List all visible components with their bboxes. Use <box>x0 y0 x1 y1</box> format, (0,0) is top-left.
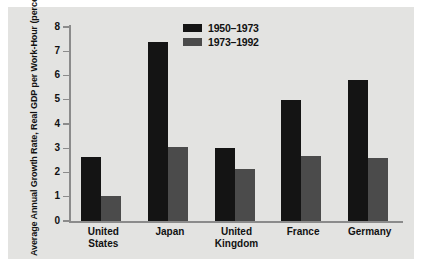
bar-1950-1973-united-states <box>81 157 101 221</box>
y-tick-label-text: 5 <box>44 94 60 104</box>
y-tick-mark-1 <box>63 196 70 197</box>
x-axis-label-france: France <box>270 226 337 238</box>
y-tick-label-text: 3 <box>44 143 60 153</box>
y-tick-label-1: 1 <box>44 191 60 202</box>
y-tick-label-2: 2 <box>44 167 60 178</box>
y-tick-label-text: 7 <box>44 46 60 56</box>
y-tick-mark-7 <box>63 51 70 52</box>
y-tick-mark-8 <box>63 26 70 27</box>
bar-1950-1973-france <box>281 100 301 221</box>
y-tick-mark-6 <box>63 75 70 76</box>
y-tick-label-8: 8 <box>44 22 60 33</box>
y-tick-label-0: 0 <box>44 216 60 227</box>
x-axis-line <box>69 221 403 223</box>
y-tick-mark-3 <box>63 148 70 149</box>
x-axis-label-united-kingdom: United Kingdom <box>203 226 270 249</box>
bar-1950-1973-germany <box>348 80 368 221</box>
x-axis-label-germany: Germany <box>336 226 403 238</box>
y-tick-label-6: 6 <box>44 70 60 81</box>
y-tick-label-5: 5 <box>44 94 60 105</box>
y-tick-label-text: 1 <box>44 191 60 201</box>
y-tick-mark-5 <box>63 99 70 100</box>
chart-legend: 1950–1973 1973–1992 <box>183 22 259 50</box>
y-tick-label-text: 6 <box>44 70 60 80</box>
legend-item-1950-1973: 1950–1973 <box>183 22 259 34</box>
y-tick-label-text: 4 <box>44 119 60 129</box>
y-tick-label-text: 0 <box>44 216 60 226</box>
x-axis-label-united-states: United States <box>70 226 137 249</box>
bar-1973-1992-germany <box>368 158 388 221</box>
bar-1950-1973-japan <box>148 42 168 221</box>
bar-1950-1973-united-kingdom <box>215 148 235 221</box>
x-axis-label-japan: Japan <box>137 226 204 238</box>
y-tick-label-text: 8 <box>44 22 60 32</box>
x-axis-category-labels: United StatesJapanUnited KingdomFranceGe… <box>70 226 403 260</box>
legend-label-series2: 1973–1992 <box>208 37 259 48</box>
y-tick-mark-4 <box>63 123 70 124</box>
y-tick-mark-0 <box>63 220 70 221</box>
y-axis-label: Average Annual Growth Rate, Real GDP per… <box>29 0 40 256</box>
bar-1973-1992-japan <box>168 147 188 221</box>
bars-layer <box>70 27 403 221</box>
y-tick-label-7: 7 <box>44 46 60 57</box>
chart-figure: Average Annual Growth Rate, Real GDP per… <box>0 0 422 268</box>
y-tick-label-text: 2 <box>44 167 60 177</box>
y-tick-label-3: 3 <box>44 143 60 154</box>
y-tick-label-4: 4 <box>44 119 60 130</box>
legend-item-1973-1992: 1973–1992 <box>183 36 259 48</box>
y-tick-mark-2 <box>63 172 70 173</box>
legend-label-series1: 1950–1973 <box>208 23 259 34</box>
bar-1973-1992-united-kingdom <box>235 169 255 221</box>
bar-1973-1992-france <box>301 156 321 221</box>
bar-1973-1992-united-states <box>101 196 121 221</box>
legend-swatch-icon-series2 <box>183 38 202 46</box>
legend-swatch-icon-series1 <box>183 24 202 32</box>
